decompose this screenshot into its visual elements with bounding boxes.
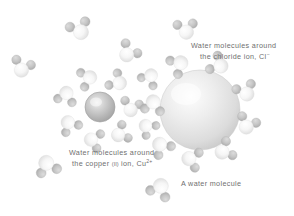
label-copper-line1: Water molecules around: [69, 148, 154, 157]
label-copper-roman: (II): [112, 162, 119, 168]
label-copper-line2-text: the copper: [72, 160, 109, 169]
label-water-text: A water molecule: [181, 179, 241, 188]
label-chloride-line2: the chloride ion, Cl−: [191, 50, 276, 62]
figure-canvas: Water molecules around the chloride ion,…: [0, 0, 294, 216]
label-chloride-line2-text: the chloride ion,: [200, 53, 257, 62]
label-water-molecule: A water molecule: [181, 179, 241, 188]
copper-ion-sphere: [85, 92, 115, 122]
label-chloride-ion: Water molecules around the chloride ion,…: [191, 41, 276, 62]
label-copper-line2-post: ion,: [121, 160, 134, 169]
hydration-illustration: [0, 0, 294, 216]
label-chloride-line1: Water molecules around: [191, 41, 276, 50]
label-chloride-species: Cl: [259, 53, 267, 62]
label-copper-charge: 2+: [146, 158, 152, 164]
label-copper-ion: Water molecules around the copper (II) i…: [69, 148, 154, 170]
label-copper-species: Cu: [136, 160, 146, 169]
label-copper-line2: the copper (II) ion, Cu2+: [69, 157, 154, 170]
label-chloride-charge: −: [267, 51, 270, 57]
